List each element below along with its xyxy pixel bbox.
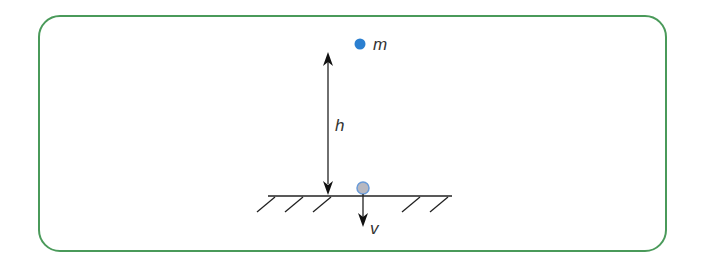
height-arrow: h — [323, 52, 344, 195]
mass-point: m — [355, 35, 388, 54]
ground-hatching — [257, 197, 448, 212]
ball-icon — [357, 182, 369, 194]
velocity-arrow: v — [358, 194, 380, 238]
mass-dot-icon — [355, 39, 366, 50]
diagram-canvas: m h v — [0, 0, 705, 269]
mass-label: m — [373, 35, 387, 54]
ground — [257, 196, 452, 212]
height-label: h — [335, 116, 344, 135]
velocity-label: v — [370, 219, 380, 238]
